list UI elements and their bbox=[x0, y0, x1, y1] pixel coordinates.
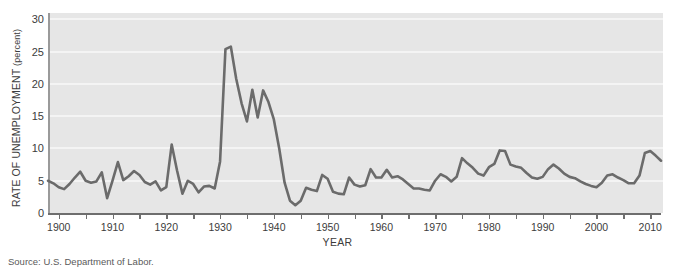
x-tick-label-1940: 1940 bbox=[262, 221, 285, 233]
unemployment-line-series bbox=[0, 0, 675, 240]
x-tick-1905 bbox=[86, 213, 87, 219]
source-note: Source: U.S. Department of Labor. bbox=[8, 256, 154, 267]
x-tick-label-1930: 1930 bbox=[208, 221, 231, 233]
x-tick-label-2010: 2010 bbox=[639, 221, 662, 233]
x-tick-1930 bbox=[220, 213, 221, 219]
x-tick-2010 bbox=[650, 213, 651, 219]
x-tick-label-1990: 1990 bbox=[531, 221, 554, 233]
x-tick-label-1950: 1950 bbox=[316, 221, 339, 233]
x-tick-1925 bbox=[193, 213, 194, 219]
x-tick-1900 bbox=[59, 213, 60, 219]
x-tick-2005 bbox=[623, 213, 624, 219]
x-tick-label-1910: 1910 bbox=[101, 221, 124, 233]
x-tick-1910 bbox=[113, 213, 114, 219]
unemployment-line bbox=[48, 47, 661, 206]
x-tick-label-1970: 1970 bbox=[423, 221, 446, 233]
x-tick-label-1980: 1980 bbox=[477, 221, 500, 233]
unemployment-rate-figure: RATE OF UNEMPLOYMENT (percent) 051015202… bbox=[0, 0, 675, 273]
x-tick-label-1900: 1900 bbox=[47, 221, 70, 233]
x-tick-1935 bbox=[247, 213, 248, 219]
x-tick-1920 bbox=[166, 213, 167, 219]
x-axis-ticks bbox=[48, 213, 661, 220]
x-tick-2000 bbox=[596, 213, 597, 219]
x-tick-1990 bbox=[543, 213, 544, 219]
x-tick-1960 bbox=[381, 213, 382, 219]
x-tick-1980 bbox=[489, 213, 490, 219]
x-tick-1985 bbox=[516, 213, 517, 219]
x-tick-1940 bbox=[274, 213, 275, 219]
x-tick-label-1920: 1920 bbox=[155, 221, 178, 233]
x-tick-1945 bbox=[301, 213, 302, 219]
x-tick-1965 bbox=[408, 213, 409, 219]
x-tick-1915 bbox=[139, 213, 140, 219]
x-axis-title: YEAR bbox=[0, 236, 675, 248]
x-tick-1955 bbox=[355, 213, 356, 219]
x-tick-1995 bbox=[570, 213, 571, 219]
x-tick-1975 bbox=[462, 213, 463, 219]
x-tick-1970 bbox=[435, 213, 436, 219]
x-tick-1950 bbox=[328, 213, 329, 219]
x-axis-tick-labels: 1900191019201930194019501960197019801990… bbox=[48, 221, 661, 237]
x-tick-label-2000: 2000 bbox=[585, 221, 608, 233]
plot-area-wrapper: RATE OF UNEMPLOYMENT (percent) 051015202… bbox=[0, 0, 675, 240]
x-tick-label-1960: 1960 bbox=[370, 221, 393, 233]
